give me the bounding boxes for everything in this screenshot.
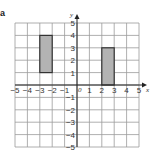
y-tick-label: 5 bbox=[71, 19, 76, 28]
y-axis-label: y bbox=[69, 11, 74, 19]
rectangle-A bbox=[40, 35, 52, 72]
x-tick-label: −2 bbox=[48, 86, 58, 95]
x-axis-label: x bbox=[145, 86, 150, 94]
y-tick-label: −1 bbox=[66, 93, 76, 102]
coordinate-grid-chart: xy−5−4−3−2−11234554321−1−2−3−4−50 bbox=[0, 0, 151, 156]
x-tick-label: 1 bbox=[87, 86, 92, 95]
x-tick-label: −5 bbox=[10, 86, 20, 95]
y-tick-label: 1 bbox=[71, 69, 76, 78]
origin-label: 0 bbox=[78, 86, 82, 94]
y-tick-label: −5 bbox=[66, 143, 76, 152]
x-tick-label: −3 bbox=[35, 86, 45, 95]
y-tick-label: 2 bbox=[71, 56, 76, 65]
y-tick-label: 3 bbox=[71, 44, 76, 53]
x-tick-label: 2 bbox=[100, 86, 105, 95]
x-tick-label: 4 bbox=[124, 86, 129, 95]
x-tick-label: −4 bbox=[23, 86, 33, 95]
y-tick-label: −3 bbox=[66, 118, 76, 127]
x-tick-label: 5 bbox=[137, 86, 142, 95]
y-tick-label: 4 bbox=[71, 31, 76, 40]
y-tick-label: −4 bbox=[66, 131, 76, 140]
y-tick-label: −2 bbox=[66, 106, 76, 115]
y-axis-arrow-icon bbox=[75, 14, 80, 19]
rectangle-B bbox=[102, 48, 114, 85]
x-tick-label: 3 bbox=[112, 86, 117, 95]
